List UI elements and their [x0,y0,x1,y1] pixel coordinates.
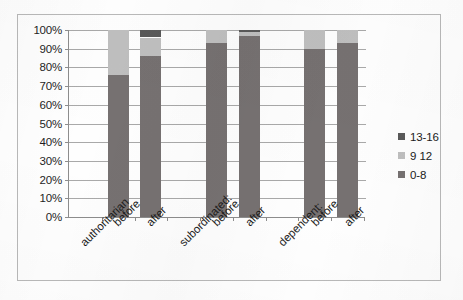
bar-segment[interactable] [206,30,227,43]
bar-segment[interactable] [206,43,227,217]
plot-area: 100%90%80%70%60%50%40%30%20%10%0% [68,30,364,218]
legend-swatch-icon [398,152,405,159]
y-axis-tick [65,67,69,68]
y-axis-tick [65,30,69,31]
chart-frame: 100%90%80%70%60%50%40%30%20%10%0% author… [17,14,441,281]
bar-slot [266,30,299,217]
y-axis-tick [65,49,69,50]
y-axis-tick-label: 20% [40,174,62,186]
bar-slot [167,30,200,217]
y-axis-tick-label: 90% [40,43,62,55]
y-axis-tick [65,217,69,218]
bar-segment[interactable] [239,30,260,32]
y-axis-tick-label: 40% [40,136,62,148]
bar-segment[interactable] [304,49,325,217]
y-axis-tick [65,142,69,143]
y-axis-tick-label: 60% [40,99,62,111]
stacked-bar[interactable] [140,30,161,217]
legend-item[interactable]: 0-8 [398,165,463,184]
y-axis-tick [65,180,69,181]
y-axis-tick [65,161,69,162]
bar-segment[interactable] [337,43,358,217]
legend-label: 13-16 [410,131,439,143]
plot-wrapper: 100%90%80%70%60%50%40%30%20%10%0% [68,30,364,218]
stacked-bar[interactable] [304,30,325,217]
stacked-bar[interactable] [108,30,129,217]
bar-segment[interactable] [108,30,129,75]
bar-slot [331,30,364,217]
bar-segment[interactable] [239,32,260,36]
legend-swatch-icon [398,171,405,178]
legend-item[interactable]: 9 12 [398,146,463,165]
bar-slot [102,30,135,217]
stacked-bar[interactable] [337,30,358,217]
bar-segment[interactable] [140,56,161,217]
y-axis-tick-label: 100% [33,24,62,36]
legend-label: 9 12 [410,150,432,162]
bar-segment[interactable] [304,30,325,49]
y-axis-tick-label: 50% [40,118,62,130]
bars-layer [69,30,364,217]
y-axis-tick [65,105,69,106]
x-axis-labels: authoritarianbeforeaftersubordinated:bef… [68,220,364,295]
chart-legend: 13-169 120-8 [398,127,463,184]
y-axis-tick-label: 30% [40,155,62,167]
x-axis-tick [364,217,365,221]
legend-label: 0-8 [410,169,426,181]
bar-segment[interactable] [140,30,161,37]
bar-slot [135,30,168,217]
bar-segment[interactable] [337,30,358,43]
stacked-bar[interactable] [206,30,227,217]
bar-slot [69,30,102,217]
y-axis-tick [65,86,69,87]
stacked-bar[interactable] [239,30,260,217]
legend-swatch-icon [398,133,405,140]
bar-segment[interactable] [108,75,129,217]
y-axis-tick-label: 0% [46,211,62,223]
bar-slot [298,30,331,217]
y-axis-tick-label: 80% [40,61,62,73]
bar-slot [233,30,266,217]
y-axis-tick-label: 70% [40,80,62,92]
y-axis-tick-label: 10% [40,192,62,204]
legend-item[interactable]: 13-16 [398,127,463,146]
bar-slot [200,30,233,217]
bar-segment[interactable] [140,38,161,57]
y-axis-tick [65,198,69,199]
bar-segment[interactable] [239,36,260,217]
y-axis-tick [65,124,69,125]
